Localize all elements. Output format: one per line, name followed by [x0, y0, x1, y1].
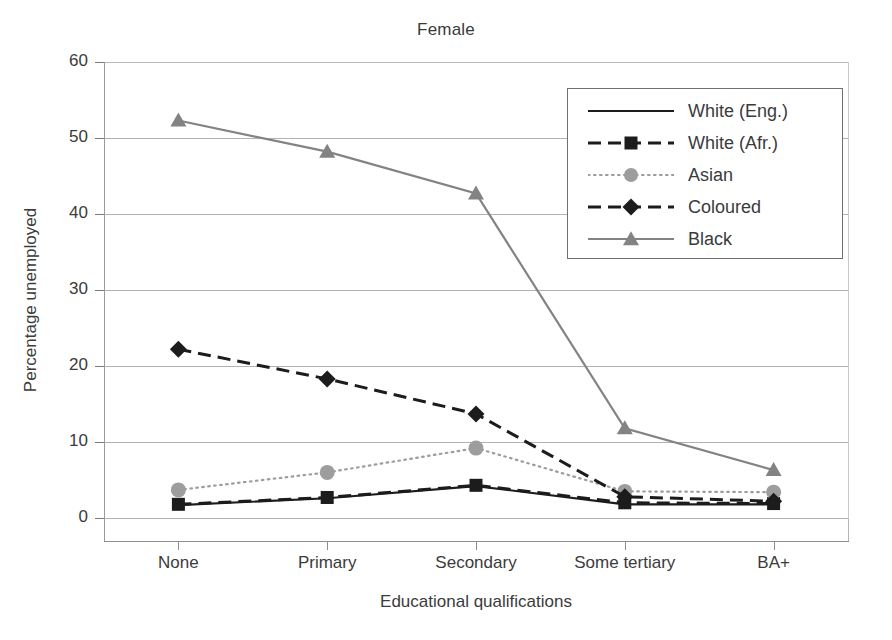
- y-tick-label-20: 20: [48, 355, 88, 375]
- x-tick-label-1: Primary: [298, 553, 357, 573]
- data-point-marker: [321, 491, 334, 504]
- x-axis-connector-left: [104, 519, 105, 542]
- data-point-marker: [470, 479, 483, 492]
- x-tick-mark-0: [178, 541, 179, 550]
- x-tick-label-3: Some tertiary: [574, 553, 675, 573]
- data-point-marker: [170, 341, 187, 358]
- y-tick-label-30: 30: [48, 279, 88, 299]
- x-tick-label-2: Secondary: [435, 553, 516, 573]
- x-tick-label-4: BA+: [757, 553, 790, 573]
- x-axis-connector-right: [848, 519, 849, 542]
- legend-sample: [588, 130, 674, 156]
- x-tick-mark-2: [476, 541, 477, 550]
- chart-figure: Female Percentage unemployed Educational…: [0, 0, 892, 640]
- data-point-marker: [172, 498, 185, 511]
- data-point-marker: [170, 113, 186, 127]
- chart-title: Female: [0, 20, 892, 40]
- data-point-marker: [319, 370, 336, 387]
- legend-item-white-eng[interactable]: White (Eng.): [568, 95, 844, 127]
- y-tick-label-40: 40: [48, 203, 88, 223]
- legend-label: Coloured: [688, 197, 761, 218]
- y-axis-title: Percentage unemployed: [21, 170, 41, 430]
- y-tick-label-50: 50: [48, 127, 88, 147]
- legend-label: White (Afr.): [688, 133, 778, 154]
- data-point-marker: [468, 405, 485, 422]
- gridline-0: [104, 518, 849, 519]
- legend-item-white-afr[interactable]: White (Afr.): [568, 127, 844, 159]
- data-point-marker: [617, 420, 633, 434]
- legend-sample: [588, 162, 674, 188]
- y-tick-label-60: 60: [48, 51, 88, 71]
- legend-marker-triangle: [623, 231, 639, 245]
- legend-item-black[interactable]: Black: [568, 223, 844, 255]
- data-point-marker: [171, 482, 186, 497]
- legend-item-coloured[interactable]: Coloured: [568, 191, 844, 223]
- legend-label: Black: [688, 229, 732, 250]
- legend-sample: [588, 98, 674, 124]
- y-tick-label-10: 10: [48, 431, 88, 451]
- x-axis-title: Educational qualifications: [104, 592, 848, 612]
- x-tick-mark-1: [327, 541, 328, 550]
- legend-marker-square: [625, 137, 638, 150]
- legend-label: Asian: [688, 165, 733, 186]
- x-tick-label-0: None: [158, 553, 199, 573]
- legend-line-swatch: [588, 98, 674, 124]
- legend-item-asian[interactable]: Asian: [568, 159, 844, 191]
- plot-border-right: [848, 62, 849, 519]
- series-white-afr: [172, 479, 780, 511]
- data-point-marker: [320, 465, 335, 480]
- data-point-marker: [469, 441, 484, 456]
- x-tick-mark-3: [625, 541, 626, 550]
- legend-marker-circle: [624, 168, 638, 182]
- x-tick-mark-4: [774, 541, 775, 550]
- legend-sample: [588, 194, 674, 220]
- legend-sample: [588, 226, 674, 252]
- legend-label: White (Eng.): [688, 101, 788, 122]
- chart-legend: White (Eng.)White (Afr.)AsianColouredBla…: [567, 88, 843, 259]
- y-tick-label-0: 0: [48, 507, 88, 527]
